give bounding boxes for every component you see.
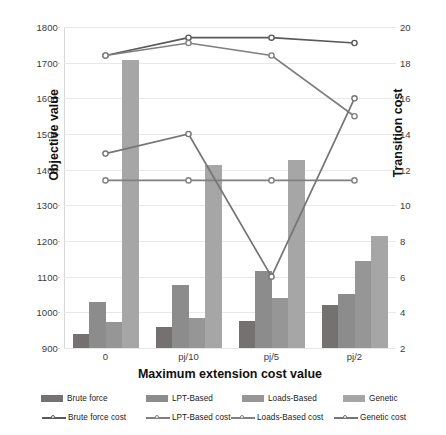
legend-label: Genetic cost [360, 413, 406, 422]
line-marker [103, 53, 108, 58]
y-tick-right: 18 [400, 57, 411, 68]
x-tick: pj/5 [242, 351, 302, 362]
chart-container: 900100011001200130014001500160017001800 … [0, 0, 446, 435]
grid-line [64, 348, 396, 349]
y-tick-right: 8 [400, 236, 405, 247]
legend-swatch-icon [343, 395, 365, 402]
legend-item-bar[interactable]: Genetic [343, 392, 398, 405]
legend-swatch-icon [146, 395, 168, 402]
y-tick-right: 2 [400, 343, 405, 354]
y-tick-left: 1800 [36, 22, 58, 33]
line-marker [186, 35, 191, 40]
line-marker [352, 178, 357, 183]
y-tick-mark-left [56, 27, 60, 28]
line-path [106, 38, 355, 56]
y-tick-left: 1000 [36, 307, 58, 318]
line-series-group [64, 27, 396, 348]
legend-line-marker-icon [42, 413, 66, 422]
legend-item-bar[interactable]: LPT-Based [146, 392, 213, 405]
line-marker [352, 114, 357, 119]
legend-label: Brute force cost [68, 413, 126, 422]
line-marker [186, 178, 191, 183]
y-tick-left: 1200 [36, 236, 58, 247]
legend-label: LPT-Based cost [172, 413, 231, 422]
y-tick-left: 1300 [36, 200, 58, 211]
y-tick-left: 1100 [37, 271, 58, 282]
x-axis-title: Maximum extension cost value [64, 367, 396, 381]
line-marker [186, 40, 191, 45]
line-path [106, 43, 355, 116]
line-marker [269, 35, 274, 40]
y-tick-mark-left [56, 205, 60, 206]
legend-item-line[interactable]: Loads-Based cost [231, 411, 323, 424]
y-tick-mark-left [56, 312, 60, 313]
legend-label: LPT-Based [172, 394, 213, 403]
legend-item-bar[interactable]: Brute force [41, 392, 108, 405]
x-tick: pj/2 [325, 351, 385, 362]
y-tick-right: 10 [400, 200, 411, 211]
legend-swatch-icon [242, 395, 264, 402]
line-marker [269, 53, 274, 58]
legend-label: Genetic [369, 394, 398, 403]
line-marker [352, 40, 357, 45]
legend-item-line[interactable]: Genetic cost [334, 411, 406, 424]
legend-item-line[interactable]: Brute force cost [42, 411, 126, 424]
plot-area [64, 27, 396, 348]
y-tick-right: 4 [400, 307, 405, 318]
legend-row-lines: Brute force costLPT-Based costLoads-Base… [0, 411, 446, 424]
line-marker [269, 178, 274, 183]
legend-item-bar[interactable]: Loads-Based [242, 392, 317, 405]
legend-swatch-icon [41, 395, 63, 402]
y-tick-mark-left [56, 348, 60, 349]
line-marker [103, 178, 108, 183]
y-axis-right-title: Transition cost [391, 73, 405, 193]
legend-line-marker-icon [231, 413, 255, 422]
line-marker [269, 274, 274, 279]
y-tick-right: 6 [400, 271, 405, 282]
legend-row-bars: Brute forceLPT-BasedLoads-BasedGenetic [0, 392, 446, 405]
y-axis-left-title: Objective value [47, 75, 61, 195]
legend-label: Loads-Based cost [257, 413, 323, 422]
legend-line-marker-icon [334, 413, 358, 422]
line-marker [352, 96, 357, 101]
line-path [106, 98, 355, 276]
x-tick: 0 [76, 351, 136, 362]
legend-item-line[interactable]: LPT-Based cost [146, 411, 231, 424]
x-tick: pj/10 [159, 351, 219, 362]
legend-label: Loads-Based [268, 394, 317, 403]
y-tick-mark-left [56, 277, 60, 278]
y-tick-left: 1700 [36, 57, 58, 68]
legend-line-marker-icon [146, 413, 170, 422]
y-axis-right: 2468101214161820 [400, 27, 440, 348]
y-tick-mark-left [56, 63, 60, 64]
y-tick-mark-left [56, 241, 60, 242]
legend-label: Brute force [67, 394, 108, 403]
line-marker [186, 131, 191, 136]
y-tick-right: 20 [400, 22, 411, 33]
line-marker [103, 151, 108, 156]
